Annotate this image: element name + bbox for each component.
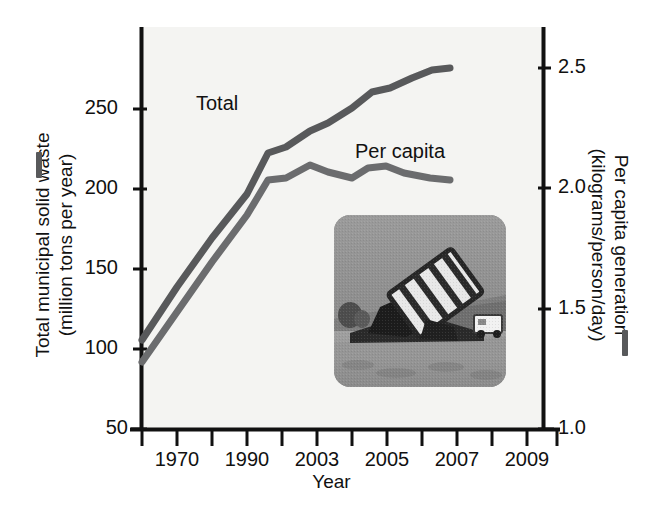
y-axis-right-title: Per capita generation (kilograms/person/… [587, 45, 633, 445]
series-annotation-total: Total [196, 92, 238, 115]
inset-photo-illustration [334, 215, 506, 387]
x-axis-ticks [142, 429, 557, 446]
inset-photo-landfill [334, 215, 506, 387]
series-annotation-per-capita: Per capita [355, 140, 445, 163]
legend-swatch-total [36, 152, 42, 178]
y-axis-left-title-line2: (million tons per year) [54, 45, 77, 445]
y-axis-right-title-line2: (kilograms/person/day) [587, 45, 610, 445]
y-axis-right-title-line1: Per capita generation [610, 45, 633, 445]
x-axis-title: Year [0, 471, 663, 493]
chart-figure: Total Per capita 50 100 150 200 250 1.0 … [0, 0, 663, 522]
x-tick-2007: 2007 [422, 448, 492, 471]
y-axis-left-title-line1: Total municipal solid waste [31, 45, 54, 445]
x-tick-1970: 1970 [142, 448, 212, 471]
legend-line-swatch-icon [36, 152, 42, 178]
y-left-tick-50: 50 [68, 416, 128, 439]
x-tick-2005: 2005 [352, 448, 422, 471]
legend-swatch-per-capita [622, 330, 628, 356]
x-tick-1990: 1990 [212, 448, 282, 471]
y-axis-left-title: Total municipal solid waste (million ton… [31, 45, 77, 445]
x-tick-2003: 2003 [282, 448, 352, 471]
legend-line-swatch-icon [622, 330, 628, 356]
x-tick-2009: 2009 [492, 448, 562, 471]
